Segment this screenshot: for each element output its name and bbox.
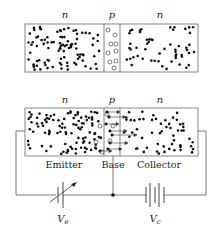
electron-icon <box>64 126 67 129</box>
electron-icon <box>125 118 128 121</box>
electron-icon <box>141 111 144 114</box>
collector-label: Collector <box>137 159 182 170</box>
electron-icon <box>66 65 69 68</box>
electron-icon <box>56 132 59 135</box>
electron-icon <box>97 34 100 37</box>
electron-icon <box>188 64 191 67</box>
electron-icon <box>158 52 161 55</box>
electron-icon <box>60 153 63 156</box>
electron-icon <box>76 38 79 41</box>
electron-icon <box>191 151 194 154</box>
electron-icon <box>169 127 172 130</box>
electron-icon <box>90 111 93 114</box>
top-npn-diagram: n p n <box>25 9 198 72</box>
electron-icon <box>173 139 176 142</box>
electron-icon <box>60 63 63 66</box>
electron-icon <box>172 116 175 119</box>
electron-icon <box>90 149 93 152</box>
electron-icon <box>56 30 59 33</box>
electron-icon <box>180 54 183 57</box>
electron-icon <box>188 137 191 140</box>
electron-icon <box>182 122 185 125</box>
electron-icon <box>141 137 144 140</box>
electron-icon <box>158 152 161 155</box>
electron-icon <box>67 40 70 43</box>
electron-icon <box>41 145 44 148</box>
electron-icon <box>63 50 66 53</box>
electron-icon <box>44 64 47 67</box>
electron-icon <box>39 68 42 71</box>
electron-icon <box>160 122 163 125</box>
electron-icon <box>63 45 66 48</box>
bottom-n-left-label: n <box>62 94 68 105</box>
electron-icon <box>129 58 132 61</box>
electron-icon <box>176 112 179 115</box>
hole-icon <box>113 33 117 37</box>
electron-icon <box>89 67 92 70</box>
electron-icon <box>47 47 50 50</box>
electron-icon <box>29 128 32 131</box>
electron-icon <box>141 57 144 60</box>
electron-icon <box>81 126 84 129</box>
electron-icon <box>188 44 191 47</box>
electron-icon <box>132 56 135 59</box>
electron-icon <box>45 121 48 124</box>
electron-icon <box>60 67 63 70</box>
bottom-n-right-label: n <box>157 94 163 105</box>
electron-icon <box>179 144 182 147</box>
electron-icon <box>52 119 55 122</box>
electron-icon <box>128 111 131 114</box>
electron-icon <box>84 32 87 35</box>
electron-icon <box>46 59 49 62</box>
electron-icon <box>165 68 168 71</box>
electron-icon <box>72 29 75 32</box>
electron-icon <box>151 132 154 135</box>
electron-icon <box>147 41 150 44</box>
hole-icon <box>106 51 110 55</box>
electron-icon <box>142 118 145 121</box>
electron-icon <box>131 29 134 32</box>
electron-icon <box>50 41 53 44</box>
electron-icon <box>162 145 165 148</box>
electron-icon <box>36 60 39 63</box>
electron-icon <box>128 136 131 139</box>
electron-icon <box>178 63 181 66</box>
electron-icon <box>133 119 136 122</box>
electron-icon <box>136 128 139 131</box>
electron-icon <box>84 151 87 154</box>
electron-icon <box>48 130 51 133</box>
electron-icon <box>188 52 191 55</box>
electron-icon <box>169 26 172 29</box>
electron-icon <box>131 131 134 134</box>
transistor-diagram: n p n n p n Emitter Base Collector <box>0 0 221 235</box>
electron-icon <box>66 61 69 64</box>
electron-icon <box>189 32 192 35</box>
electron-icon <box>40 39 43 42</box>
top-p-label: p <box>109 9 116 20</box>
top-base-holes <box>106 28 118 70</box>
electron-icon <box>185 46 188 49</box>
electron-icon <box>177 129 180 132</box>
top-n-left-label: n <box>62 9 68 20</box>
electron-icon <box>80 116 83 119</box>
electron-icon <box>63 118 66 121</box>
electron-icon <box>182 126 185 129</box>
electron-icon <box>57 119 60 122</box>
electron-icon <box>80 147 83 150</box>
electron-icon <box>98 50 101 53</box>
electron-icon <box>77 120 80 123</box>
emitter-label: Emitter <box>46 159 83 170</box>
electron-icon <box>58 125 61 128</box>
electron-icon <box>46 41 49 44</box>
electron-icon <box>44 38 47 41</box>
electron-icon <box>48 133 51 136</box>
electron-icon <box>146 146 149 149</box>
electron-icon <box>67 112 70 115</box>
electron-icon <box>82 122 85 125</box>
electron-icon <box>29 52 32 55</box>
electron-icon <box>160 130 163 133</box>
electron-icon <box>188 26 191 29</box>
electron-icon <box>33 68 36 71</box>
electron-icon <box>95 147 98 150</box>
electron-icon <box>72 123 75 126</box>
